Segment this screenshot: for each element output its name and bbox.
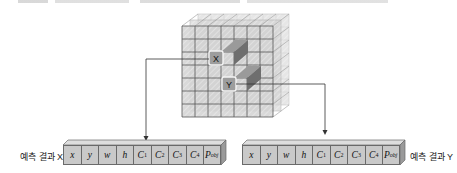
output-y-vector: x y w h C1 C2 C3 C4 Pobj xyxy=(242,145,400,165)
svg-text:Y: Y xyxy=(226,80,232,90)
output-x-cell: Pobj xyxy=(203,145,221,165)
output-y-cell: C4 xyxy=(365,145,383,165)
output-y-cell: Pobj xyxy=(382,145,400,165)
output-y-cell: x xyxy=(242,145,260,165)
output-y-cell: C1 xyxy=(312,145,330,165)
output-x-label: 예측 결과 X xyxy=(20,150,63,163)
output-x-cell: C3 xyxy=(168,145,186,165)
output-y-cell: C2 xyxy=(330,145,348,165)
output-y-cell: y xyxy=(260,145,278,165)
output-y-cell: C3 xyxy=(347,145,365,165)
output-x-cell: h xyxy=(116,145,134,165)
output-x-cell: C4 xyxy=(186,145,204,165)
output-x-cell: y xyxy=(81,145,99,165)
svg-text:X: X xyxy=(213,54,219,64)
output-y-label: 예측 결과 Y xyxy=(410,150,453,163)
output-y-cell: w xyxy=(277,145,295,165)
cell-x-marker: X xyxy=(209,51,223,65)
output-x-cell: w xyxy=(98,145,116,165)
output-x-cell: x xyxy=(63,145,81,165)
output-x-cell: C1 xyxy=(133,145,151,165)
cell-y-marker: Y xyxy=(222,77,236,91)
output-x-cell: C2 xyxy=(151,145,169,165)
arrowhead-y xyxy=(323,130,328,135)
output-y-cell: h xyxy=(295,145,313,165)
output-x-vector: x y w h C1 C2 C3 C4 Pobj xyxy=(63,145,221,165)
